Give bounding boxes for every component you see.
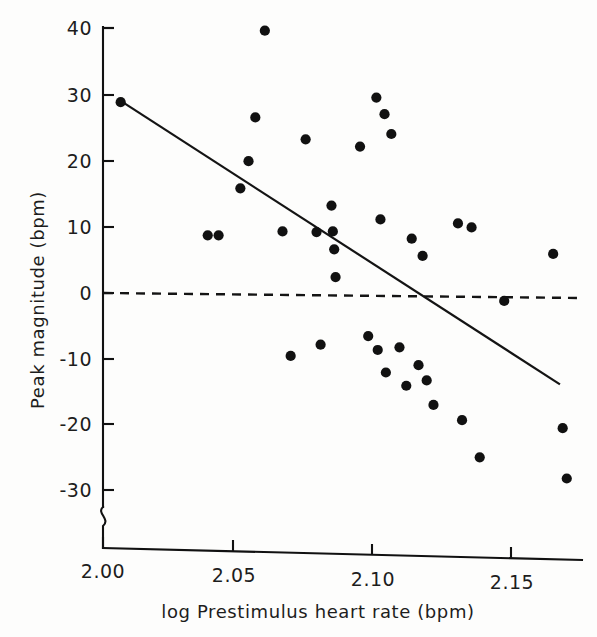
plot-canvas: 40 30 20 10 0 -10 -20 -30 Peak magnitude… bbox=[0, 0, 597, 637]
data-points-group bbox=[116, 26, 572, 484]
x-tick-label-205: 2.05 bbox=[212, 564, 256, 586]
data-point bbox=[548, 249, 558, 259]
data-point bbox=[422, 375, 432, 385]
y-tick-marks bbox=[103, 28, 114, 490]
data-point bbox=[401, 381, 411, 391]
data-point bbox=[413, 360, 423, 370]
y-tick-label-neg30: -30 bbox=[59, 479, 92, 501]
data-point bbox=[475, 452, 485, 462]
y-tick-label-neg20: -20 bbox=[59, 413, 92, 435]
data-point bbox=[394, 342, 404, 352]
data-point bbox=[116, 97, 126, 107]
data-point bbox=[428, 400, 438, 410]
data-point bbox=[277, 226, 287, 236]
data-point bbox=[379, 109, 389, 119]
data-point bbox=[243, 156, 253, 166]
data-point bbox=[235, 183, 245, 193]
data-point bbox=[311, 227, 321, 237]
data-point bbox=[355, 141, 365, 151]
data-point bbox=[329, 244, 339, 254]
data-point bbox=[326, 200, 336, 210]
data-point bbox=[562, 473, 572, 483]
x-axis bbox=[103, 537, 582, 560]
data-point bbox=[301, 134, 311, 144]
data-point bbox=[375, 214, 385, 224]
data-point bbox=[558, 423, 568, 433]
data-point bbox=[371, 92, 381, 102]
scatter-plot-figure: 40 30 20 10 0 -10 -20 -30 Peak magnitude… bbox=[0, 0, 597, 637]
data-point bbox=[214, 230, 224, 240]
data-point bbox=[330, 272, 340, 282]
data-point bbox=[203, 230, 213, 240]
data-point bbox=[316, 340, 326, 350]
x-axis-title: log Prestimulus heart rate (bpm) bbox=[161, 601, 474, 622]
x-tick-label-200: 2.00 bbox=[81, 560, 125, 582]
data-point bbox=[328, 226, 338, 236]
y-tick-label-0: 0 bbox=[79, 282, 92, 304]
y-tick-label-30: 30 bbox=[67, 84, 92, 106]
data-point bbox=[250, 112, 260, 122]
data-point bbox=[418, 251, 428, 261]
data-point bbox=[386, 129, 396, 139]
data-point bbox=[260, 26, 270, 36]
data-point bbox=[499, 296, 509, 306]
y-tick-labels: 40 30 20 10 0 -10 -20 -30 bbox=[59, 17, 92, 501]
regression-line bbox=[121, 101, 560, 385]
data-point bbox=[381, 367, 391, 377]
data-point bbox=[453, 218, 463, 228]
data-point bbox=[407, 234, 417, 244]
y-tick-label-40: 40 bbox=[67, 17, 92, 39]
x-tick-label-210: 2.10 bbox=[351, 568, 395, 590]
x-tick-label-215: 2.15 bbox=[490, 571, 534, 593]
data-point bbox=[286, 351, 296, 361]
y-axis bbox=[101, 27, 114, 548]
y-tick-label-20: 20 bbox=[67, 150, 92, 172]
x-tick-labels: 2.00 2.05 2.10 2.15 bbox=[81, 560, 534, 593]
y-axis-title: Peak magnitude (bpm) bbox=[27, 191, 48, 409]
y-tick-label-neg10: -10 bbox=[59, 348, 92, 370]
data-point bbox=[457, 415, 467, 425]
data-point bbox=[373, 345, 383, 355]
data-point bbox=[466, 222, 476, 232]
data-point bbox=[363, 331, 373, 341]
y-tick-label-10: 10 bbox=[67, 216, 92, 238]
